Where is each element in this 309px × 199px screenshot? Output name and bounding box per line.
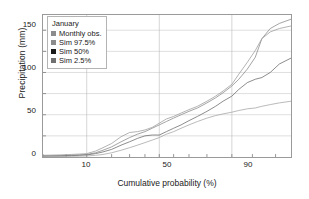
x-tick-label-50: 50 (152, 161, 182, 169)
legend-swatch-icon-sim-97-5 (51, 40, 56, 45)
legend-swatch-icon-monthly-obs (51, 31, 56, 36)
legend-item-sim-50: Sim 50% (51, 47, 102, 56)
x-tick-label-10: 10 (71, 161, 101, 169)
legend-label-monthly-obs: Monthly obs. (59, 29, 102, 38)
y-tick-label-100: 100 (0, 64, 36, 72)
legend-label-sim-2-5: Sim 2.5% (59, 56, 91, 65)
legend: January Monthly obs. Sim 97.5% Sim 50% S… (47, 16, 107, 69)
y-axis-title-container: Precipitation (mm) (0, 0, 16, 199)
legend-item-sim-97-5: Sim 97.5% (51, 38, 102, 47)
y-tick-label-50: 50 (0, 107, 36, 115)
legend-item-sim-2-5: Sim 2.5% (51, 56, 102, 65)
y-tick-label-150: 150 (0, 21, 36, 29)
legend-swatch-icon-sim-2-5 (51, 58, 56, 63)
precipitation-cumulative-probability-chart: Precipitation (mm) 0 50 100 150 10 50 90… (0, 0, 309, 199)
legend-label-sim-97-5: Sim 97.5% (59, 38, 95, 47)
legend-title: January (51, 19, 102, 29)
legend-label-sim-50: Sim 50% (59, 47, 89, 56)
y-tick-label-0: 0 (0, 150, 36, 158)
legend-item-monthly-obs: Monthly obs. (51, 29, 102, 38)
legend-swatch-icon-sim-50 (51, 49, 56, 54)
x-axis-title: Cumulative probability (%) (42, 178, 292, 188)
x-tick-label-90: 90 (233, 161, 263, 169)
